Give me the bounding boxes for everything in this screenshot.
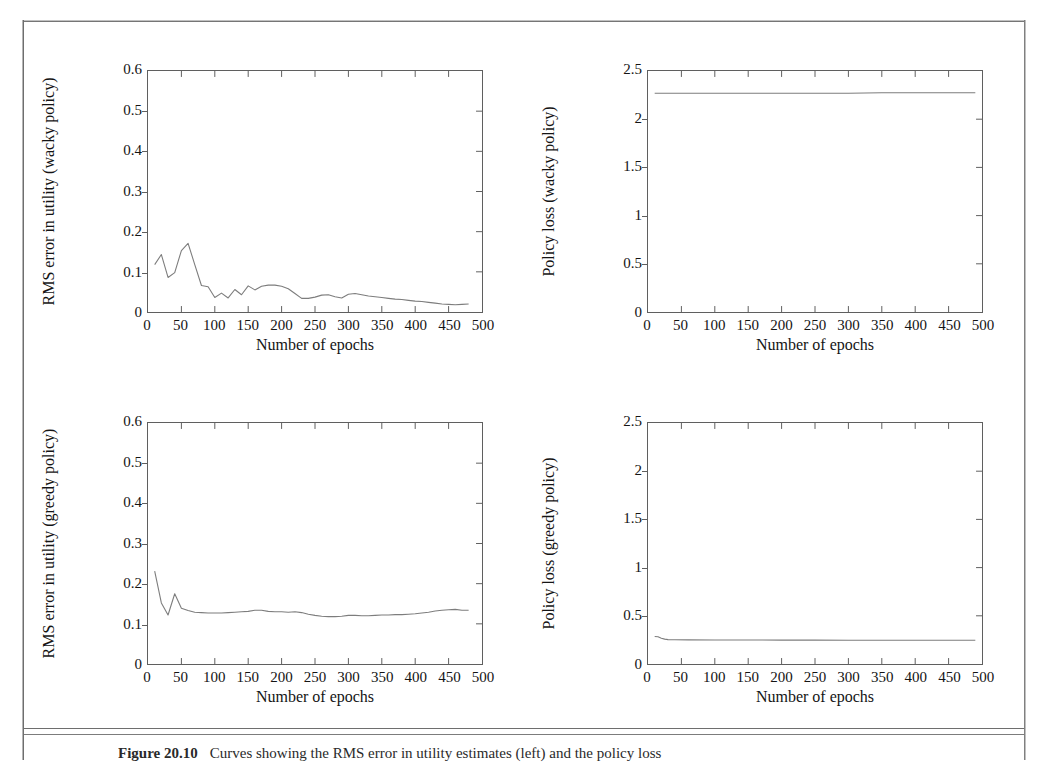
x-tick-label: 0	[143, 318, 151, 333]
y-tick-label: 0.2	[94, 224, 142, 239]
y-tick-label: 0.5	[594, 256, 642, 271]
x-tick-label: 0	[643, 670, 651, 685]
x-tick-label: 250	[304, 670, 327, 685]
x-tick-label: 100	[703, 318, 726, 333]
y-tick-label: 1	[594, 208, 642, 223]
x-tick-label: 300	[837, 318, 860, 333]
x-tick-label: 350	[871, 318, 894, 333]
x-tick-label: 200	[770, 670, 793, 685]
x-tick-label: 250	[804, 318, 827, 333]
x-tick-label: 200	[270, 670, 293, 685]
x-tick-label: 100	[203, 670, 226, 685]
y-tick-label: 0	[594, 657, 642, 672]
x-axis-label: Number of epochs	[647, 336, 983, 354]
tick-marks	[681, 71, 982, 312]
y-tick-label: 1	[594, 560, 642, 575]
figure-divider-rule	[24, 728, 1024, 735]
y-tick-label: 0	[594, 305, 642, 320]
y-tick-label: 1.5	[594, 159, 642, 174]
figure-panel-grid: RMS error in utility (wacky policy) 00.1…	[24, 22, 1024, 726]
x-tick-label: 400	[405, 318, 428, 333]
x-tick-label: 200	[770, 318, 793, 333]
x-tick-label: 450	[938, 318, 961, 333]
x-axis-ticks: 050100150200250300350400450500	[647, 666, 983, 688]
x-axis-ticks: 050100150200250300350400450500	[147, 666, 483, 688]
y-axis-label: Policy loss (wacky policy)	[540, 70, 562, 313]
y-axis-ticks: 00.511.522.5	[590, 70, 642, 313]
x-tick-label: 0	[143, 670, 151, 685]
x-tick-label: 100	[203, 318, 226, 333]
x-tick-label: 50	[173, 670, 188, 685]
x-tick-label: 300	[337, 318, 360, 333]
chart-panel-rms-wacky: RMS error in utility (wacky policy) 00.1…	[24, 22, 524, 374]
x-tick-label: 400	[905, 318, 928, 333]
y-tick-label: 0.5	[94, 455, 142, 470]
y-tick-label: 2	[594, 463, 642, 478]
x-tick-label: 50	[673, 670, 688, 685]
x-tick-label: 450	[438, 318, 461, 333]
y-tick-label: 2.5	[594, 414, 642, 429]
x-tick-label: 250	[804, 670, 827, 685]
y-axis-ticks: 00.511.522.5	[590, 422, 642, 665]
x-tick-label: 250	[304, 318, 327, 333]
y-tick-label: 2.5	[594, 62, 642, 77]
y-tick-label: 0.5	[94, 103, 142, 118]
plot-svg	[148, 71, 482, 312]
x-tick-label: 150	[237, 670, 260, 685]
data-series-line	[655, 637, 976, 641]
x-axis-label: Number of epochs	[147, 688, 483, 706]
y-tick-label: 1.5	[594, 511, 642, 526]
x-tick-label: 150	[737, 670, 760, 685]
chart-panel-loss-greedy: Policy loss (greedy policy) 00.511.522.5…	[524, 374, 1024, 726]
x-tick-label: 200	[270, 318, 293, 333]
x-tick-label: 100	[703, 670, 726, 685]
x-tick-label: 350	[371, 670, 394, 685]
y-tick-label: 0	[94, 657, 142, 672]
tick-marks	[681, 423, 982, 664]
x-tick-label: 300	[337, 670, 360, 685]
x-tick-label: 400	[905, 670, 928, 685]
x-axis-ticks: 050100150200250300350400450500	[647, 314, 983, 336]
x-tick-label: 450	[438, 670, 461, 685]
y-tick-label: 0.4	[94, 143, 142, 158]
y-tick-label: 0.5	[594, 608, 642, 623]
plot-area	[647, 70, 983, 313]
x-tick-label: 500	[972, 670, 995, 685]
plot-area	[647, 422, 983, 665]
y-axis-ticks: 00.10.20.30.40.50.6	[90, 70, 142, 313]
x-axis-label: Number of epochs	[647, 688, 983, 706]
x-tick-label: 500	[472, 318, 495, 333]
plot-svg	[648, 71, 982, 312]
x-axis-ticks: 050100150200250300350400450500	[147, 314, 483, 336]
y-tick-label: 0.3	[94, 184, 142, 199]
x-tick-label: 400	[405, 670, 428, 685]
y-axis-ticks: 00.10.20.30.40.50.6	[90, 422, 142, 665]
y-tick-label: 0.2	[94, 576, 142, 591]
x-tick-label: 150	[237, 318, 260, 333]
x-tick-label: 500	[472, 670, 495, 685]
data-series-line	[155, 571, 469, 616]
y-tick-label: 0.1	[94, 617, 142, 632]
caption-number: Figure 20.10	[118, 745, 198, 761]
plot-area	[147, 422, 483, 665]
y-tick-label: 0.1	[94, 265, 142, 280]
data-series-line	[155, 243, 469, 304]
plot-area	[147, 70, 483, 313]
chart-panel-loss-wacky: Policy loss (wacky policy) 00.511.522.5 …	[524, 22, 1024, 374]
x-tick-label: 0	[643, 318, 651, 333]
plot-svg	[148, 423, 482, 664]
caption-text: Curves showing the RMS error in utility …	[210, 745, 662, 761]
x-axis-label: Number of epochs	[147, 336, 483, 354]
y-tick-label: 0.3	[94, 536, 142, 551]
y-tick-label: 2	[594, 111, 642, 126]
y-axis-label: RMS error in utility (greedy policy)	[40, 422, 62, 665]
x-tick-label: 500	[972, 318, 995, 333]
y-tick-label: 0.6	[94, 62, 142, 77]
x-tick-label: 450	[938, 670, 961, 685]
tick-marks	[181, 71, 482, 312]
plot-svg	[648, 423, 982, 664]
y-tick-label: 0	[94, 305, 142, 320]
page-border-right	[1024, 20, 1026, 760]
y-tick-label: 0.4	[94, 495, 142, 510]
